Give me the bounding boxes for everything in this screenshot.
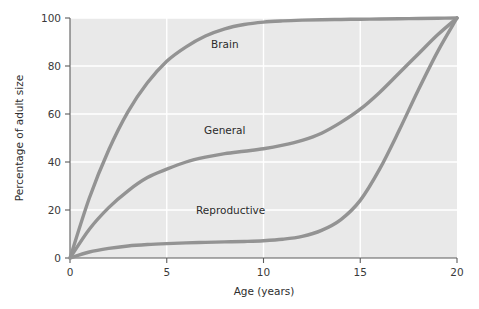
series-label-brain: Brain	[211, 38, 239, 50]
series-label-general: General	[204, 124, 245, 136]
y-axis-tick-label: 0	[54, 252, 61, 264]
x-axis-title: Age (years)	[234, 285, 295, 297]
x-axis-tick-label: 20	[450, 266, 463, 278]
series-label-reproductive: Reproductive	[196, 204, 265, 216]
y-axis-title: Percentage of adult size	[13, 75, 25, 201]
x-axis-tick-label: 0	[67, 266, 74, 278]
figure-container: 020406080100 05101520 BrainGeneralReprod…	[0, 0, 479, 309]
y-axis-tick-label: 40	[48, 156, 61, 168]
y-axis-tick-label: 60	[48, 108, 61, 120]
x-axis-tick-label: 5	[163, 266, 170, 278]
y-axis-tick-label: 20	[48, 204, 61, 216]
growth-curves-chart: 020406080100 05101520 BrainGeneralReprod…	[0, 0, 479, 309]
y-axis-tick-label: 100	[41, 12, 61, 24]
y-axis-tick-label: 80	[48, 60, 61, 72]
x-axis-tick-label: 10	[257, 266, 270, 278]
x-axis-tick-label: 15	[354, 266, 367, 278]
